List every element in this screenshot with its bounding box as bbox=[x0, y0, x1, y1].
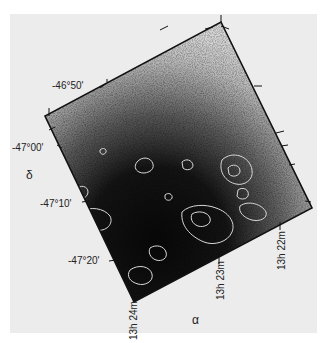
sky-image-plot bbox=[0, 0, 324, 343]
ra-tick-label: 13h 24m bbox=[128, 301, 139, 340]
ra-tick-label: 13h 23m bbox=[215, 261, 226, 300]
dec-tick-label: -47°20' bbox=[68, 255, 99, 266]
dec-tick-label: -47°00' bbox=[12, 142, 43, 153]
ra-tick-label: 13h 22m bbox=[276, 231, 287, 270]
dec-tick-label: -47°10' bbox=[40, 198, 71, 209]
dec-axis-symbol: δ bbox=[26, 168, 33, 182]
dec-tick-label: -46°50' bbox=[52, 80, 83, 91]
ra-axis-symbol: α bbox=[192, 313, 199, 327]
